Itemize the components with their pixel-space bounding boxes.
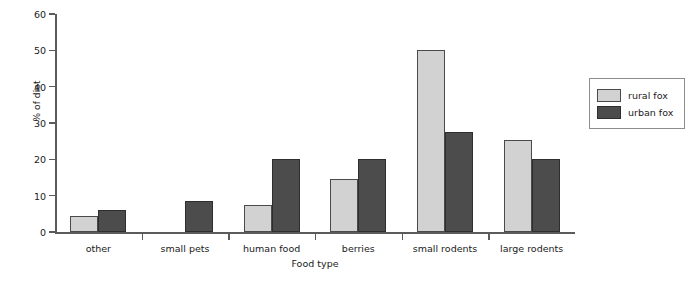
y-tick-mark <box>49 13 55 14</box>
bar-rural-fox-berries <box>330 179 358 232</box>
x-separator-tick <box>228 233 229 240</box>
legend-swatch-rural-fox <box>597 89 621 102</box>
bar-urban-fox-berries <box>358 159 386 232</box>
category-label: human food <box>243 243 300 254</box>
category-label: small pets <box>161 243 210 254</box>
bar-rural-fox-large-rodents <box>504 140 532 232</box>
legend-item-rural-fox: rural fox <box>597 87 678 103</box>
y-tick-mark <box>49 159 55 160</box>
legend-swatch-urban-fox <box>597 106 621 119</box>
y-tick-mark <box>49 122 55 123</box>
bar-rural-fox-other <box>70 216 98 232</box>
category-label: berries <box>342 243 375 254</box>
x-axis-title: Food type <box>0 258 630 269</box>
y-tick-label: 20 <box>6 154 46 165</box>
bar-urban-fox-large-rodents <box>532 159 560 232</box>
y-tick-mark <box>49 86 55 87</box>
y-axis-line <box>55 14 57 233</box>
bar-rural-fox-small-rodents <box>417 50 445 232</box>
legend-item-urban-fox: urban fox <box>597 104 678 120</box>
legend-label-urban-fox: urban fox <box>628 107 673 118</box>
y-tick-label: 0 <box>6 227 46 238</box>
bar-urban-fox-small-pets <box>185 201 213 232</box>
x-separator-tick <box>315 233 316 240</box>
category-label: other <box>86 243 111 254</box>
bar-rural-fox-human-food <box>244 205 272 232</box>
bar-urban-fox-other <box>98 210 126 232</box>
legend-label-rural-fox: rural fox <box>628 90 668 101</box>
y-tick-label: 10 <box>6 190 46 201</box>
category-label: small rodents <box>413 243 477 254</box>
y-tick-label: 50 <box>6 45 46 56</box>
bar-urban-fox-human-food <box>272 159 300 232</box>
bar-urban-fox-small-rodents <box>445 132 473 232</box>
legend: rural fox urban fox <box>589 78 685 129</box>
y-tick-mark <box>49 195 55 196</box>
x-separator-tick <box>142 233 143 240</box>
bar-chart: % of diet 0102030405060 othersmall petsh… <box>0 0 693 282</box>
y-tick-mark <box>49 50 55 51</box>
x-separator-tick <box>402 233 403 240</box>
category-label: large rodents <box>500 243 563 254</box>
y-tick-label: 60 <box>6 9 46 20</box>
x-separator-tick <box>488 233 489 240</box>
y-tick-label: 40 <box>6 81 46 92</box>
y-tick-label: 30 <box>6 118 46 129</box>
